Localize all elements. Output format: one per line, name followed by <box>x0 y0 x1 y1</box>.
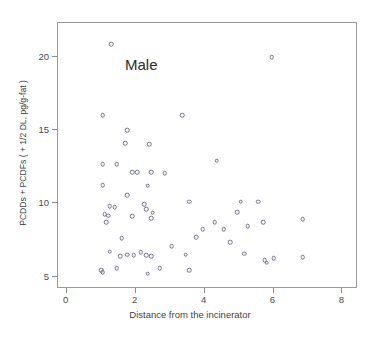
data-point <box>242 252 247 257</box>
x-axis-tick-label: 8 <box>339 294 344 305</box>
data-point <box>107 249 112 254</box>
y-axis-tick-label: 20 <box>38 50 49 61</box>
data-point <box>119 236 124 241</box>
data-point <box>151 210 156 215</box>
data-point <box>142 202 147 207</box>
plot-area <box>57 22 357 288</box>
data-point <box>228 240 233 245</box>
y-axis-tick-label: 10 <box>38 197 49 208</box>
data-point <box>183 252 188 257</box>
data-point <box>101 270 106 275</box>
data-point <box>145 271 150 276</box>
x-axis-tick <box>341 288 342 293</box>
data-point <box>101 183 106 188</box>
data-point <box>157 266 162 271</box>
data-point <box>123 141 128 146</box>
x-axis-tick <box>204 288 205 293</box>
data-point <box>180 113 185 118</box>
data-point <box>125 252 130 257</box>
data-point <box>235 210 240 215</box>
data-point <box>144 207 149 212</box>
data-point <box>147 142 152 147</box>
data-point <box>114 266 119 271</box>
x-axis-tick-label: 4 <box>201 294 206 305</box>
data-point <box>130 214 135 219</box>
x-axis-tick <box>273 288 274 293</box>
y-axis-tick <box>52 202 57 203</box>
data-point <box>104 220 109 225</box>
data-point <box>214 158 219 163</box>
data-point <box>264 260 269 265</box>
data-point <box>101 113 106 118</box>
data-points-layer <box>58 23 356 287</box>
x-axis-tick <box>66 288 67 293</box>
data-point <box>113 205 118 210</box>
data-point <box>187 200 192 205</box>
data-point <box>194 235 199 240</box>
data-point <box>125 193 130 198</box>
data-point <box>144 253 149 258</box>
data-point <box>138 250 143 255</box>
data-point <box>114 162 119 167</box>
data-point <box>125 128 130 133</box>
data-point <box>238 200 243 205</box>
x-axis-label: Distance from the incinerator <box>0 309 380 320</box>
data-point <box>301 255 306 260</box>
data-point <box>130 170 135 175</box>
data-point <box>261 220 266 225</box>
y-axis-tick-label: 15 <box>38 123 49 134</box>
y-axis-tick-label: 5 <box>44 270 49 281</box>
data-point <box>118 254 123 259</box>
data-point <box>221 227 226 232</box>
x-axis-tick-label: 0 <box>63 294 68 305</box>
y-axis-tick <box>52 276 57 277</box>
data-point <box>149 216 154 221</box>
data-point <box>187 268 192 273</box>
data-point <box>132 253 137 258</box>
data-point <box>245 224 250 229</box>
scatter-plot-figure: Male Distance from the incinerator PCDDs… <box>0 0 380 338</box>
data-point <box>256 200 261 205</box>
data-point <box>169 244 174 249</box>
data-point <box>109 42 114 47</box>
data-point <box>107 204 112 209</box>
data-point <box>101 162 106 167</box>
y-axis-label: PCDDs + PCDFs ( + 1/2 DL, pg/g-fat ) <box>18 38 28 268</box>
y-axis-tick <box>52 129 57 130</box>
data-point <box>149 170 154 175</box>
data-point <box>106 213 111 218</box>
data-point <box>269 55 274 60</box>
data-point <box>301 217 306 222</box>
x-axis-tick <box>135 288 136 293</box>
data-point <box>213 220 218 225</box>
data-point <box>145 183 150 188</box>
data-point <box>271 256 276 261</box>
x-axis-tick-label: 2 <box>132 294 137 305</box>
series-annotation-label: Male <box>125 56 158 73</box>
data-point <box>135 170 140 175</box>
y-axis-tick <box>52 56 57 57</box>
data-point <box>149 254 154 259</box>
data-point <box>163 171 168 176</box>
x-axis-tick-label: 6 <box>270 294 275 305</box>
data-point <box>201 227 206 232</box>
